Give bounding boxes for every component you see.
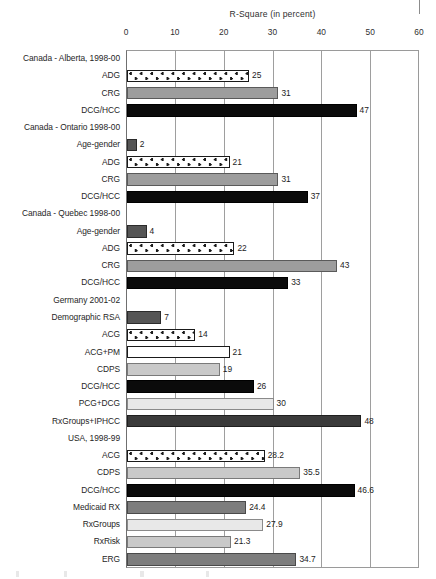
bar-value-label: 33 — [288, 274, 300, 291]
group-label: Canada - Ontario 1998-00 — [0, 119, 120, 136]
category-label: DCG/HCC — [0, 102, 120, 119]
bar-value-label: 35.5 — [300, 464, 319, 481]
bar-row: Age-gender4 — [0, 223, 436, 240]
bar — [127, 139, 137, 151]
bar-row: RxGroups+IPHCC48 — [0, 413, 436, 430]
category-label: CDPS — [0, 464, 120, 481]
bar — [127, 260, 337, 272]
bar-row: ACG28.2 — [0, 447, 436, 464]
bar — [127, 87, 278, 99]
bar-row: CRG31 — [0, 85, 436, 102]
x-tick-label: 10 — [170, 27, 179, 37]
bar — [127, 311, 161, 323]
bar — [127, 380, 254, 392]
bar — [127, 277, 288, 289]
bar-value-label: 2 — [137, 136, 145, 153]
category-label: ADG — [0, 67, 120, 84]
category-label: ACG+PM — [0, 344, 120, 361]
bar — [127, 346, 230, 358]
category-label: CRG — [0, 257, 120, 274]
bar-row: RxGroups27.9 — [0, 516, 436, 533]
bar-value-label: 28.2 — [265, 447, 284, 464]
x-tick-label: 50 — [365, 27, 374, 37]
bar-value-label: 24.4 — [246, 499, 265, 516]
scan-artifact — [10, 571, 310, 577]
x-tick-label: 60 — [414, 27, 423, 37]
bar-row: ADG25 — [0, 67, 436, 84]
group-header-row: Canada - Quebec 1998-00 — [0, 205, 436, 222]
bar-value-label: 21 — [230, 344, 242, 361]
category-label: Age-gender — [0, 136, 120, 153]
bar-row: ADG21 — [0, 154, 436, 171]
bar-value-label: 7 — [161, 309, 169, 326]
bar-row: DCG/HCC26 — [0, 378, 436, 395]
bar-row: ERG34.7 — [0, 551, 436, 568]
x-tick-label: 30 — [268, 27, 277, 37]
category-label: RxGroups — [0, 516, 120, 533]
bar — [127, 363, 220, 375]
x-axis-tick-labels: 0102030405060 — [0, 27, 436, 41]
x-tick-label: 20 — [219, 27, 228, 37]
bar-row: ACG+PM21 — [0, 344, 436, 361]
bar-value-label: 46.6 — [355, 482, 374, 499]
group-label: Canada - Quebec 1998-00 — [0, 205, 120, 222]
bar — [127, 104, 357, 116]
bar-value-label: 27.9 — [263, 516, 282, 533]
bar-row: Age-gender2 — [0, 136, 436, 153]
bar-value-label: 22 — [234, 240, 246, 257]
category-label: DCG/HCC — [0, 188, 120, 205]
bar — [127, 467, 300, 479]
bar-value-label: 25 — [249, 67, 261, 84]
x-tick-label: 0 — [124, 27, 129, 37]
bar-value-label: 34.7 — [296, 551, 315, 568]
bar-row: ADG22 — [0, 240, 436, 257]
bar — [127, 484, 355, 496]
bar-row: CRG43 — [0, 257, 436, 274]
bar-row: DCG/HCC37 — [0, 188, 436, 205]
bar — [127, 242, 234, 254]
bar — [127, 225, 147, 237]
bar-value-label: 31 — [278, 171, 290, 188]
category-label: CRG — [0, 171, 120, 188]
bar — [127, 450, 265, 462]
category-label: CRG — [0, 85, 120, 102]
group-header-row: USA, 1998-99 — [0, 430, 436, 447]
group-header-row: Canada - Alberta, 1998-00 — [0, 50, 436, 67]
category-label: ACG — [0, 447, 120, 464]
bar-row: Demographic RSA7 — [0, 309, 436, 326]
category-label: Age-gender — [0, 223, 120, 240]
bar-value-label: 21 — [230, 154, 242, 171]
bar-row: Medicaid RX24.4 — [0, 499, 436, 516]
group-label: Canada - Alberta, 1998-00 — [0, 50, 120, 67]
bar-value-label: 37 — [308, 188, 320, 205]
category-label: DCG/HCC — [0, 274, 120, 291]
chart-title: R-Square (in percent) — [126, 9, 419, 19]
category-label: DCG/HCC — [0, 378, 120, 395]
category-label: ERG — [0, 551, 120, 568]
bar — [127, 501, 246, 513]
chart-rows: Canada - Alberta, 1998-00ADG25CRG31DCG/H… — [0, 50, 436, 568]
bar-row: CDPS19 — [0, 361, 436, 378]
category-label: DCG/HCC — [0, 482, 120, 499]
bar-row: ACG14 — [0, 326, 436, 343]
bar-value-label: 4 — [147, 223, 155, 240]
bar — [127, 519, 263, 531]
bar-row: DCG/HCC46.6 — [0, 482, 436, 499]
bar-value-label: 26 — [254, 378, 266, 395]
bar — [127, 191, 308, 203]
bar-value-label: 43 — [337, 257, 349, 274]
bar-row: CRG31 — [0, 171, 436, 188]
bar-value-label: 19 — [220, 361, 232, 378]
category-label: CDPS — [0, 361, 120, 378]
bar — [127, 173, 278, 185]
category-label: ADG — [0, 240, 120, 257]
bar-value-label: 21.3 — [231, 533, 250, 550]
bar — [127, 536, 231, 548]
group-header-row: Germany 2001-02 — [0, 292, 436, 309]
group-header-row: Canada - Ontario 1998-00 — [0, 119, 436, 136]
bar-value-label: 30 — [274, 395, 286, 412]
bar-value-label: 48 — [361, 413, 373, 430]
bar — [127, 415, 361, 427]
category-label: RxRisk — [0, 533, 120, 550]
category-label: Medicaid RX — [0, 499, 120, 516]
